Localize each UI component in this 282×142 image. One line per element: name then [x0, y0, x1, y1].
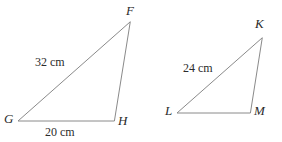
triangle-fgh-outline [18, 22, 130, 121]
vertex-label-k: K [255, 17, 264, 30]
triangle-klm-outline [177, 38, 262, 113]
measure-label-lk: 24 cm [183, 62, 213, 74]
vertex-label-f: F [126, 4, 134, 17]
vertex-label-g: G [4, 112, 13, 125]
measure-label-gf: 32 cm [35, 56, 65, 68]
geometry-figure: F G H 32 cm 20 cm K L M 24 cm [0, 0, 282, 142]
measure-label-gh: 20 cm [45, 126, 75, 138]
vertex-label-m: M [254, 104, 265, 117]
vertex-label-h: H [118, 114, 127, 127]
triangles-canvas [0, 0, 282, 142]
vertex-label-l: L [165, 104, 172, 117]
